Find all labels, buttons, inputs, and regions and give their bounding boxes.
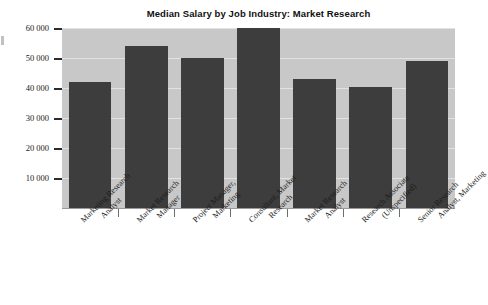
- y-axis-tick-label: 40 000: [26, 83, 49, 93]
- bar-slot: [62, 28, 118, 208]
- bar[interactable]: [349, 87, 392, 209]
- y-axis-tick-mark: [54, 178, 62, 180]
- y-axis-tick-label: 60 000: [26, 23, 49, 33]
- y-axis-tick-label: 50 000: [26, 53, 49, 63]
- y-axis-tick-label: 20 000: [26, 143, 49, 153]
- bar-slot: [230, 28, 286, 208]
- x-axis-labels: Marketing ResearchAnalystMarket Research…: [0, 208, 472, 305]
- y-axis-tick-mark: [54, 58, 62, 60]
- y-axis-tick-mark: [54, 148, 62, 150]
- y-axis-tick-label: 30 000: [26, 113, 49, 123]
- bar-slot: [343, 28, 399, 208]
- bar[interactable]: [181, 58, 224, 208]
- y-axis-tick-mark: [54, 28, 62, 30]
- bar-slot: [174, 28, 230, 208]
- bar[interactable]: [237, 28, 280, 208]
- chart-title: Median Salary by Job Industry: Market Re…: [62, 8, 455, 19]
- y-axis-tick-mark: [54, 118, 62, 120]
- y-axis-tick-label: 10 000: [26, 173, 49, 183]
- y-axis-tick-mark: [54, 88, 62, 90]
- scan-artifact: [1, 36, 4, 45]
- bar[interactable]: [69, 82, 112, 208]
